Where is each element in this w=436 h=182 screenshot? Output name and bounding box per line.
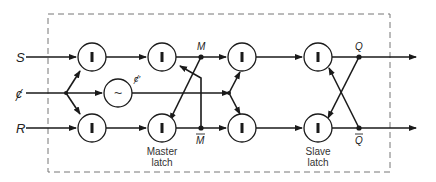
- q-bar-junction: [356, 125, 361, 130]
- master-caption-line2: latch: [151, 157, 172, 168]
- inverted-clock-split-junction: [227, 91, 231, 95]
- gate-bar-icon: [317, 123, 320, 133]
- m-junction: [198, 54, 203, 59]
- clock-to-r-gate: [66, 93, 80, 114]
- m-bar-label: M: [196, 135, 205, 146]
- q-label: Q: [355, 41, 363, 52]
- m-label: M: [197, 41, 206, 52]
- flip-flop-diagram: ~ S ȼ R ȼ′ M M Q Q Master latch Slave la…: [0, 0, 436, 182]
- r-label: R: [16, 121, 25, 136]
- q-bar-label: Q: [355, 135, 363, 146]
- slave-caption-line1: Slave: [305, 146, 330, 157]
- gate-bar-icon: [91, 123, 94, 133]
- gate-bar-icon: [161, 52, 164, 62]
- slave-caption-line2: latch: [307, 157, 328, 168]
- inverter-tilde-icon: ~: [114, 85, 122, 101]
- gate-bar-icon: [161, 123, 164, 133]
- s-label: S: [16, 50, 25, 65]
- master-caption-line1: Master: [147, 146, 178, 157]
- gate-bar-icon: [241, 52, 244, 62]
- m-bar-junction: [198, 125, 203, 130]
- inverted-clock-label: ȼ′: [133, 74, 141, 84]
- q-junction: [356, 54, 361, 59]
- gate-bar-icon: [317, 52, 320, 62]
- clock-to-s-gate: [66, 71, 80, 93]
- clock-split-junction: [64, 91, 68, 95]
- gate-bar-icon: [91, 52, 94, 62]
- clock-label: ȼ: [15, 87, 23, 101]
- gate-bar-icon: [241, 123, 244, 133]
